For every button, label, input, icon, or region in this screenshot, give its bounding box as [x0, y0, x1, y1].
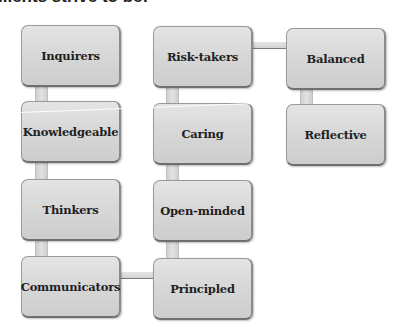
connector-principled-openminded: [166, 240, 179, 260]
node-label: Reflective: [304, 128, 366, 142]
node-label: Balanced: [306, 52, 364, 66]
node-label: Risk-takers: [167, 50, 238, 64]
node-principled: Principled: [153, 258, 253, 320]
node-label: Communicators: [21, 280, 121, 294]
node-balanced: Balanced: [286, 28, 386, 90]
node-label: Thinkers: [43, 203, 99, 217]
node-label: Caring: [181, 127, 223, 141]
node-thinkers: Thinkers: [21, 179, 121, 241]
node-label: Open-minded: [160, 204, 245, 218]
node-communicators: Communicators: [21, 256, 121, 318]
node-open-minded: Open-minded: [153, 180, 253, 242]
node-risk-takers: Risk-takers: [153, 26, 253, 88]
node-reflective: Reflective: [286, 104, 386, 166]
node-label: Principled: [170, 282, 235, 296]
connector-communicators-principled: [120, 272, 154, 279]
node-label: Knowledgeable: [23, 125, 119, 139]
node-label: Inquirers: [41, 49, 100, 63]
connector-inquirers-knowledgeable: [35, 86, 48, 102]
node-caring: Caring: [153, 103, 253, 165]
node-inquirers: Inquirers: [21, 25, 121, 87]
connector-risktakers-balanced: [252, 42, 286, 49]
caption-text: ...ents strive to be:: [0, 0, 148, 7]
